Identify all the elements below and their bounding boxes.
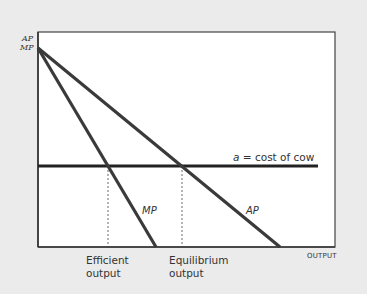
commons-diagram: AP MP a = cost of cow MP AP Efficient ou… xyxy=(0,0,367,294)
y-axis-label-mp: MP xyxy=(20,43,34,52)
equilibrium-output-label: Equilibrium output xyxy=(169,254,229,280)
x-axis-label: OUTPUT xyxy=(307,252,337,260)
efficient-label-line2: output xyxy=(86,267,129,280)
equilibrium-label-line1: Equilibrium xyxy=(169,254,229,267)
cost-text: cost of cow xyxy=(255,151,314,163)
efficient-label-line1: Efficient xyxy=(86,254,129,267)
cost-line-label: a = cost of cow xyxy=(233,151,314,163)
cost-equals: = xyxy=(243,151,252,163)
mp-curve-label: MP xyxy=(142,205,157,216)
y-axis-label-ap: AP xyxy=(22,34,33,43)
efficient-output-label: Efficient output xyxy=(86,254,129,280)
ap-curve-label: AP xyxy=(246,205,259,216)
plot-area xyxy=(38,32,335,247)
cost-variable: a xyxy=(233,151,239,163)
equilibrium-label-line2: output xyxy=(169,267,229,280)
diagram-canvas xyxy=(0,0,367,294)
